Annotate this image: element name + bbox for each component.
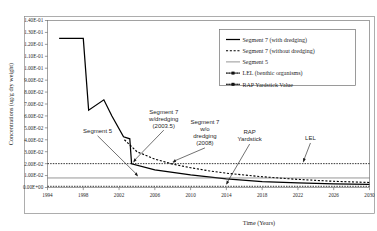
y-axis-tick-label: 6.00E-02 — [24, 113, 44, 119]
chart-container: 0.00E+001.00E-022.00E-023.00E-024.00E-02… — [0, 0, 377, 231]
x-axis-tick-label: 2010 — [185, 192, 196, 198]
legend-swatch-marker — [232, 72, 235, 75]
legend-label: RAP Yardstick Value — [243, 82, 294, 88]
annotation-text: w/o — [199, 126, 210, 132]
y-axis-tick-label: 1.00E-02 — [24, 172, 44, 178]
annotation-text: Segment 7 — [190, 119, 220, 125]
x-axis-tick-label: 2014 — [221, 192, 232, 198]
annotation-text: w/dredging — [148, 116, 178, 122]
concentration-time-line-chart: 0.00E+001.00E-022.00E-023.00E-024.00E-02… — [0, 0, 377, 231]
annotation-text: Segment 7 — [149, 109, 179, 115]
x-axis-tick-label: 1994 — [42, 192, 53, 198]
y-axis-tick-label: 7.00E-02 — [24, 101, 44, 107]
x-axis-tick-label: 2006 — [150, 192, 161, 198]
y-axis-tick-label: 0.00E+00 — [23, 184, 44, 190]
y-axis-tick-label: 1.40E-01 — [24, 17, 44, 23]
y-axis-tick-label: 1.00E-01 — [24, 65, 44, 71]
annotation-text: dredging — [193, 133, 216, 139]
y-axis-tick-label: 4.00E-02 — [24, 137, 44, 143]
legend-label: Segment 7 (without dredging) — [243, 48, 315, 55]
x-axis-tick-label: 1998 — [78, 192, 89, 198]
annotation-text: Yardstick — [238, 136, 263, 142]
y-axis-tick-label: 5.00E-02 — [24, 125, 44, 131]
x-axis-title: Time (Years) — [243, 219, 275, 227]
x-axis-tick-label: 2026 — [329, 192, 340, 198]
y-axis-tick-label: 9.00E-02 — [24, 77, 44, 83]
y-axis-title: Concentrations (ug/g dry weight) — [7, 63, 15, 145]
y-axis-tick-label: 1.30E-01 — [24, 29, 44, 35]
annotation-text: (2008) — [196, 140, 213, 146]
x-axis-tick-label: 2030 — [364, 192, 375, 198]
annotation-text: Segment 5 — [83, 128, 113, 134]
legend-label: Segment 7 (with dredging) — [243, 37, 308, 44]
y-axis-tick-label: 1.20E-01 — [24, 41, 44, 47]
annotation-text: RAP — [243, 129, 255, 135]
x-axis-tick-label: 2002 — [114, 192, 125, 198]
y-axis-tick-label: 3.00E-02 — [24, 149, 44, 155]
annotation-text: (2003.5) — [153, 123, 175, 129]
x-axis-tick-label: 2018 — [257, 192, 268, 198]
y-axis-tick-label: 1.10E-01 — [24, 53, 44, 59]
legend-label: LEL (benthic organisms) — [243, 70, 303, 77]
y-axis-tick-label: 2.00E-02 — [24, 161, 44, 167]
legend-swatch-marker — [232, 83, 235, 86]
y-axis-tick-label: 8.00E-02 — [24, 89, 44, 95]
annotation-text: LEL — [305, 135, 316, 141]
legend-label: Segment 5 — [243, 59, 269, 65]
x-axis-tick-label: 2022 — [293, 192, 304, 198]
chart-legend: Segment 7 (with dredging)Segment 7 (with… — [220, 30, 356, 88]
